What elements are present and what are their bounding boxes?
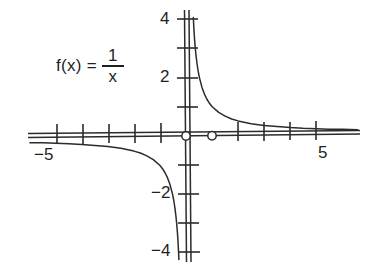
hyperbola-branch-quadrant-3 bbox=[30, 143, 179, 260]
hyperbola-branch-quadrant-1 bbox=[193, 18, 357, 130]
x-axis-group bbox=[28, 131, 360, 138]
x-axis-line-lower bbox=[28, 134, 360, 138]
equation-fraction: 1 x bbox=[102, 47, 124, 85]
fraction-numerator: 1 bbox=[104, 47, 122, 65]
x-axis-line-upper bbox=[28, 131, 360, 134]
equation-left-hand-side: f(x) = bbox=[56, 56, 97, 76]
function-graph-figure: f(x) = 1 x −5 5 4 2 −2 −4 bbox=[0, 0, 365, 266]
unit-open-circle bbox=[208, 132, 216, 140]
origin-open-circle bbox=[182, 132, 190, 140]
fraction-denominator: x bbox=[105, 67, 122, 85]
function-equation-label: f(x) = 1 x bbox=[56, 40, 166, 92]
graph-canvas bbox=[0, 0, 365, 266]
